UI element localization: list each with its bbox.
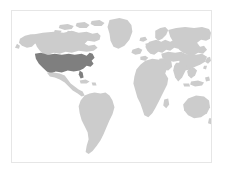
map-frame-border <box>11 10 212 163</box>
world-map-canvas[interactable] <box>12 11 211 162</box>
world-map-widget <box>0 0 226 175</box>
